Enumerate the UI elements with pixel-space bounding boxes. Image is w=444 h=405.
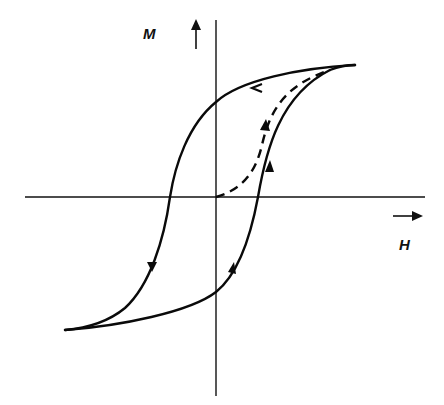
hysteresis-diagram: M H	[0, 0, 444, 405]
direction-arrow-icon	[228, 262, 236, 274]
initial-magnetization-curve	[216, 70, 330, 197]
right-arrow-icon	[393, 211, 423, 221]
up-arrow-icon	[191, 19, 201, 49]
direction-arrow-icon	[252, 84, 262, 92]
m-axis-label: M	[143, 25, 156, 42]
h-axis-label: H	[399, 236, 411, 253]
direction-arrow-icon	[147, 262, 157, 272]
